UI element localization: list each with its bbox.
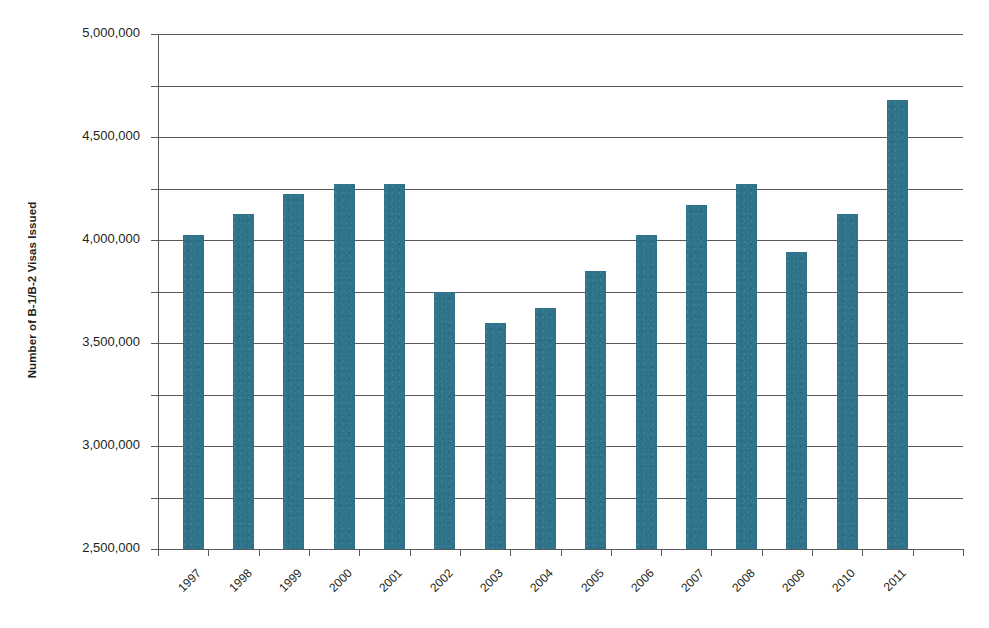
x-axis-tick bbox=[611, 549, 612, 556]
bar[interactable] bbox=[636, 235, 657, 549]
x-axis-tick-label: 1998 bbox=[213, 566, 254, 607]
y-axis-tick: 3,500,000 bbox=[151, 189, 158, 190]
bar[interactable] bbox=[585, 271, 606, 549]
bar[interactable] bbox=[837, 214, 858, 549]
x-axis-tick-label: 2005 bbox=[566, 566, 607, 607]
x-axis-tick bbox=[460, 549, 461, 556]
x-axis-tick-label: 1997 bbox=[163, 566, 204, 607]
bar[interactable] bbox=[535, 308, 556, 549]
x-axis-tick bbox=[561, 549, 562, 556]
bar[interactable] bbox=[485, 323, 506, 549]
x-axis-tick-label: 1999 bbox=[264, 566, 305, 607]
gridline bbox=[158, 86, 963, 87]
y-axis-tick-label: 4,500,000 bbox=[82, 128, 140, 143]
x-axis-tick-label: 2007 bbox=[666, 566, 707, 607]
bar[interactable] bbox=[887, 100, 908, 549]
gridline bbox=[158, 189, 963, 190]
bar-chart-figure: Number of B-1/B-2 Visas Issued 0500,0001… bbox=[0, 0, 989, 628]
x-axis-tick bbox=[208, 549, 209, 556]
y-axis-tick-label: 5,000,000 bbox=[82, 25, 140, 40]
bar[interactable] bbox=[283, 194, 304, 549]
y-axis-tick: 3,000,000 bbox=[151, 240, 158, 241]
x-axis-tick-label: 2006 bbox=[616, 566, 657, 607]
y-axis-tick: 0 bbox=[151, 549, 158, 550]
y-axis-tick-label: 4,000,000 bbox=[82, 231, 140, 246]
x-axis-tick bbox=[259, 549, 260, 556]
y-axis-tick: 2,500,000 bbox=[151, 292, 158, 293]
x-axis-tick bbox=[711, 549, 712, 556]
y-axis-tick: 5,000,000 bbox=[151, 34, 158, 35]
y-axis-tick: 1,000,000 bbox=[151, 446, 158, 447]
bar[interactable] bbox=[183, 235, 204, 549]
x-axis-tick bbox=[661, 549, 662, 556]
x-axis-tick-label: 2001 bbox=[364, 566, 405, 607]
x-axis-tick-label: 2008 bbox=[717, 566, 758, 607]
y-axis-title: Number of B-1/B-2 Visas Issued bbox=[26, 140, 38, 440]
x-axis-tick-label: 2002 bbox=[415, 566, 456, 607]
x-axis-tick bbox=[359, 549, 360, 556]
bar[interactable] bbox=[686, 205, 707, 549]
cropped-title-artifact bbox=[330, 0, 660, 7]
y-axis-tick-label: 2,500,000 bbox=[82, 540, 140, 555]
x-axis-tick-label: 2011 bbox=[868, 566, 909, 607]
x-axis-tick-label: 2009 bbox=[767, 566, 808, 607]
y-axis-tick-label: 3,000,000 bbox=[82, 437, 140, 452]
y-axis-tick: 500,000 bbox=[151, 498, 158, 499]
x-axis-tick bbox=[510, 549, 511, 556]
bar[interactable] bbox=[384, 184, 405, 549]
bar[interactable] bbox=[786, 252, 807, 549]
x-axis-tick bbox=[309, 549, 310, 556]
plot-area: 0500,0001,000,0001,500,0002,000,0002,500… bbox=[158, 34, 963, 549]
x-axis-tick-label: 2010 bbox=[817, 566, 858, 607]
bar[interactable] bbox=[736, 184, 757, 549]
x-axis-tick bbox=[913, 549, 914, 556]
x-axis-tick bbox=[762, 549, 763, 556]
y-axis-tick: 4,000,000 bbox=[151, 137, 158, 138]
bar[interactable] bbox=[334, 184, 355, 549]
x-axis-tick bbox=[963, 549, 964, 556]
y-axis-tick: 2,000,000 bbox=[151, 343, 158, 344]
x-axis-tick bbox=[812, 549, 813, 556]
x-axis-tick bbox=[862, 549, 863, 556]
x-axis-tick-label: 2003 bbox=[465, 566, 506, 607]
x-axis-labels: 1997199819992000200120022003200420052006… bbox=[158, 564, 963, 624]
y-axis-tick: 4,500,000 bbox=[151, 86, 158, 87]
gridline bbox=[158, 34, 963, 35]
x-axis-tick bbox=[158, 549, 159, 556]
x-axis-tick-label: 2000 bbox=[314, 566, 355, 607]
bar[interactable] bbox=[233, 214, 254, 549]
gridline bbox=[158, 137, 963, 138]
y-axis-tick: 1,500,000 bbox=[151, 395, 158, 396]
x-axis-tick bbox=[410, 549, 411, 556]
x-axis-tick-label: 2004 bbox=[515, 566, 556, 607]
y-axis-tick-label: 3,500,000 bbox=[82, 334, 140, 349]
bar[interactable] bbox=[434, 292, 455, 550]
